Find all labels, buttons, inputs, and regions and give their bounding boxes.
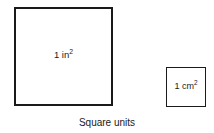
- square-inch-shape: 1 in2: [14, 7, 113, 106]
- square-centimeter-shape: 1 cm2: [166, 67, 206, 107]
- square-centimeter-exponent: 2: [194, 79, 198, 86]
- square-inch-exponent: 2: [69, 48, 73, 55]
- square-inch-label: 1 in2: [16, 50, 111, 60]
- square-centimeter-value: 1: [174, 81, 179, 91]
- square-centimeter-unit: cm: [182, 81, 194, 91]
- square-centimeter-label: 1 cm2: [167, 82, 205, 91]
- square-inch-value: 1: [54, 49, 59, 60]
- square-units-figure: 1 in2 1 cm2 Square units: [0, 0, 214, 133]
- figure-caption: Square units: [0, 117, 214, 128]
